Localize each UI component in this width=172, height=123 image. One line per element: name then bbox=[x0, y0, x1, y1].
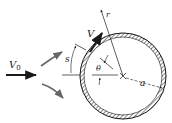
cylinder-flow-diagram: V0 r V s θ a bbox=[0, 0, 172, 123]
surface-velocity-label: V bbox=[87, 28, 96, 39]
angle-theta-label: θ bbox=[96, 64, 101, 73]
radius-label: a bbox=[140, 78, 145, 88]
arc-length-label: s bbox=[65, 54, 70, 64]
center-mark bbox=[120, 73, 126, 79]
lower-streamline-arrow bbox=[42, 84, 63, 98]
free-stream-velocity-label: V0 bbox=[9, 59, 21, 72]
radial-coordinate-label: r bbox=[106, 10, 111, 19]
radial-coordinate-line bbox=[101, 10, 123, 76]
angle-theta-marker bbox=[99, 55, 113, 85]
upper-streamline-arrow bbox=[41, 52, 62, 66]
